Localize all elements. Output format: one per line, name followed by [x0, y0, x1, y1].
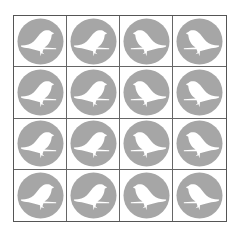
bird-icon	[70, 120, 117, 167]
image-grid	[13, 15, 227, 222]
grid-cell[interactable]	[120, 170, 173, 221]
grid-cell[interactable]	[14, 170, 67, 221]
grid-cell[interactable]	[120, 16, 173, 67]
bird-icon	[17, 172, 64, 219]
grid-cell[interactable]	[67, 170, 120, 221]
grid-cell[interactable]	[120, 67, 173, 118]
bird-icon	[123, 120, 170, 167]
bird-icon	[70, 18, 117, 65]
bird-icon	[176, 69, 223, 116]
grid-cell[interactable]	[14, 119, 67, 170]
grid-cell[interactable]	[120, 119, 173, 170]
bird-icon	[123, 69, 170, 116]
bird-icon	[123, 172, 170, 219]
grid-cell[interactable]	[173, 170, 226, 221]
bird-icon	[17, 18, 64, 65]
bird-icon	[70, 172, 117, 219]
grid-cell[interactable]	[173, 16, 226, 67]
bird-icon	[70, 69, 117, 116]
bird-icon	[176, 18, 223, 65]
grid-cell[interactable]	[67, 67, 120, 118]
grid-cell[interactable]	[67, 16, 120, 67]
grid-cell[interactable]	[14, 67, 67, 118]
bird-icon	[17, 69, 64, 116]
bird-icon	[176, 120, 223, 167]
grid-cell[interactable]	[173, 119, 226, 170]
grid-cell[interactable]	[14, 16, 67, 67]
bird-icon	[123, 18, 170, 65]
grid-cell[interactable]	[173, 67, 226, 118]
bird-icon	[17, 120, 64, 167]
bird-icon	[176, 172, 223, 219]
grid-cell[interactable]	[67, 119, 120, 170]
